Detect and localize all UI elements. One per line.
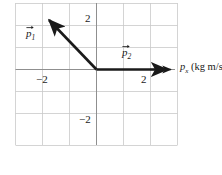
vector-label-p1-symbol: p — [26, 28, 32, 39]
vector-label-p1: p1 — [26, 28, 35, 39]
x-tick-label-positive-2: 2 — [141, 74, 147, 85]
x-axis-label-subscript: x — [185, 67, 188, 75]
momentum-vector-figure: 2 −2 −2 2 p1 p2 px (kg m/s) — [0, 0, 222, 175]
vector-label-p2-symbol: p — [122, 47, 128, 58]
vector-label-p1-subscript: 1 — [32, 33, 36, 42]
vector-label-p2-subscript: 2 — [128, 52, 132, 61]
x-axis-label: px (kg m/s) — [180, 62, 222, 73]
y-tick-label-negative-2: −2 — [79, 114, 91, 125]
x-axis-label-units: (kg m/s) — [191, 61, 222, 72]
vector-plot-canvas — [0, 0, 222, 175]
x-tick-label-negative-2: −2 — [36, 74, 48, 85]
vector-label-p2: p2 — [122, 47, 131, 58]
y-tick-label-positive-2: 2 — [85, 13, 91, 24]
vector-p1 — [49, 20, 97, 70]
